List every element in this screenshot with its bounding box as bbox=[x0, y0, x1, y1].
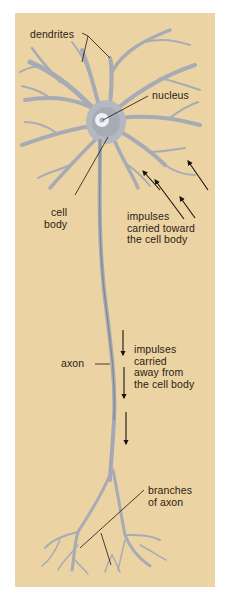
label-impulses-away: impulses carried away from the cell body bbox=[134, 344, 194, 390]
axon-shape bbox=[100, 140, 115, 480]
label-axon: axon bbox=[61, 358, 84, 370]
nucleus-shape bbox=[95, 113, 109, 127]
label-dendrites: dendrites bbox=[30, 29, 74, 41]
arrows-away-from-cell-body bbox=[123, 330, 126, 444]
label-cell-body: cell body bbox=[44, 207, 67, 230]
label-impulses-toward: impulses carried toward the cell body bbox=[127, 211, 195, 246]
neuron-illustration bbox=[0, 0, 229, 600]
label-branches-of-axon: branches of axon bbox=[148, 485, 192, 508]
label-nucleus: nucleus bbox=[152, 90, 189, 102]
